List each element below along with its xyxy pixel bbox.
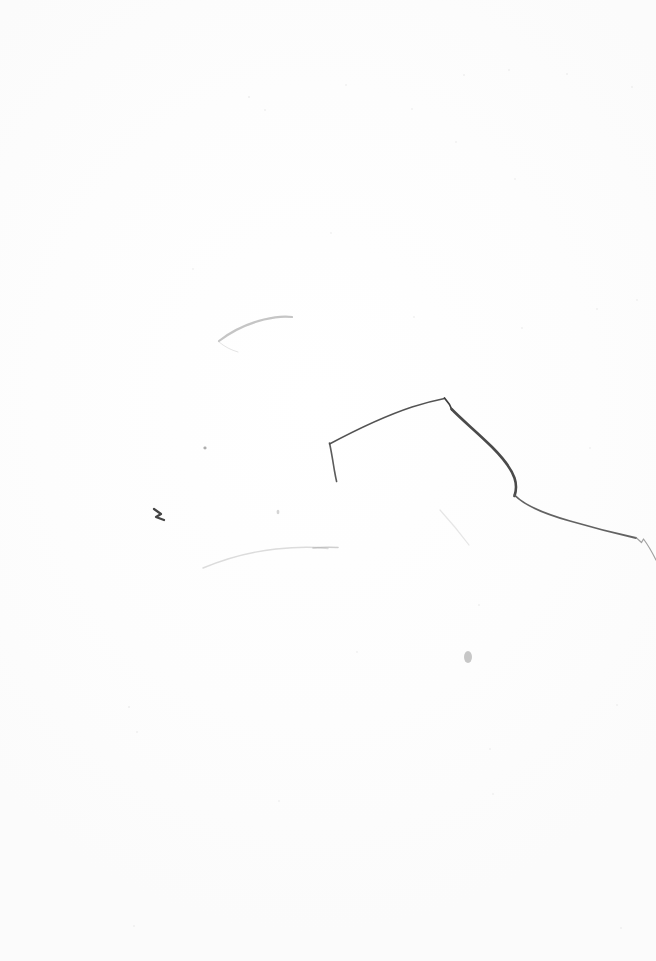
sketch-sheet: Untitled pencil sketch Partial head and …: [0, 0, 656, 961]
jaw-sweep-dash: [313, 547, 338, 548]
cheek-faint-diagonal: [440, 510, 469, 545]
head-crown-contour: [330, 399, 445, 445]
small-dark-zigzag-mark: [154, 509, 164, 520]
pencil-drawing: [0, 0, 656, 961]
neck-s-curve-contour: [452, 409, 517, 496]
graphite-dot: [203, 447, 206, 450]
stroke-layer: [154, 317, 656, 568]
eyebrow-trailing-wisp: [219, 342, 238, 352]
graphite-tick: [277, 510, 280, 514]
shoulder-edge-tail: [636, 538, 656, 561]
left-end-hook: [330, 443, 337, 482]
jaw-shoulder-sweep: [203, 547, 328, 568]
graphite-smudge: [464, 651, 472, 663]
eyebrow-hatched-arc: [219, 317, 292, 341]
shoulder-descending-line: [515, 495, 637, 538]
